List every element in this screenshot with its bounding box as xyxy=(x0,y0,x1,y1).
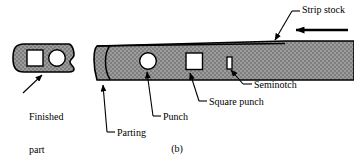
label-parting: Parting xyxy=(117,127,146,138)
parting-leader xyxy=(103,85,115,132)
strip-round-punch-hole xyxy=(140,53,157,70)
label-seminotch: Seminotch xyxy=(254,79,297,90)
label-strip-stock: Strip stock xyxy=(302,4,345,15)
finished-part-round-hole xyxy=(49,50,66,67)
label-punch: Punch xyxy=(163,111,188,122)
strip-stock-outline xyxy=(94,41,354,80)
finished-part-group xyxy=(13,44,74,72)
strip-stock-group xyxy=(94,41,354,80)
progressive-die-strip-layout-figure: Strip stock Seminotch Square punch Punch… xyxy=(0,0,354,161)
figure-caption: (b) xyxy=(0,143,354,154)
finished-part-square-hole xyxy=(27,50,43,66)
strip-square-punch-hole xyxy=(186,53,203,70)
strip-seminotch-slot xyxy=(227,57,232,69)
label-finished-part-line1: Finished xyxy=(29,111,63,122)
strip-stock-leader xyxy=(275,11,300,40)
label-square-punch: Square punch xyxy=(209,96,264,107)
